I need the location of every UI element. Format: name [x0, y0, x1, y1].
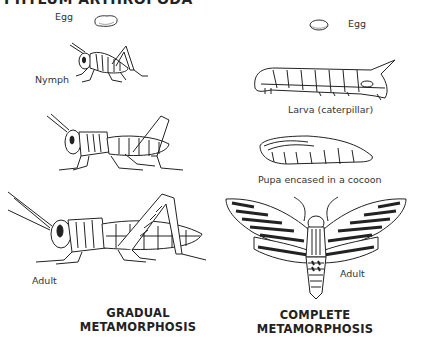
- moth-adult-label: Adult: [340, 268, 365, 279]
- gradual-egg-label: Egg: [55, 11, 73, 22]
- moth-adult-icon: [224, 197, 408, 301]
- page-title: PHYLUM ARTHROPODA: [4, 0, 193, 7]
- grasshopper-nymph-icon: [68, 40, 158, 90]
- gradual-heading-line1: GRADUAL: [68, 306, 208, 320]
- caterpillar-icon: [251, 58, 401, 102]
- pupa-label: Pupa encased in a cocoon: [258, 174, 382, 185]
- larva-label: Larva (caterpillar): [288, 104, 373, 115]
- gradual-nymph-label: Nymph: [35, 74, 69, 85]
- grasshopper-egg-icon: [93, 14, 119, 28]
- complete-heading-line2: METAMORPHOSIS: [250, 322, 380, 336]
- grasshopper-adult-icon: [6, 190, 210, 266]
- moth-egg-icon: [309, 19, 329, 31]
- gradual-adult-label: Adult: [32, 275, 57, 286]
- gradual-heading: GRADUAL METAMORPHOSIS: [68, 306, 208, 334]
- complete-heading-line1: COMPLETE: [250, 308, 380, 322]
- grasshopper-older-nymph-icon: [45, 112, 195, 174]
- gradual-heading-line2: METAMORPHOSIS: [68, 320, 208, 334]
- cocoon-icon: [258, 134, 378, 166]
- complete-egg-label: Egg: [348, 18, 366, 29]
- complete-heading: COMPLETE METAMORPHOSIS: [250, 308, 380, 336]
